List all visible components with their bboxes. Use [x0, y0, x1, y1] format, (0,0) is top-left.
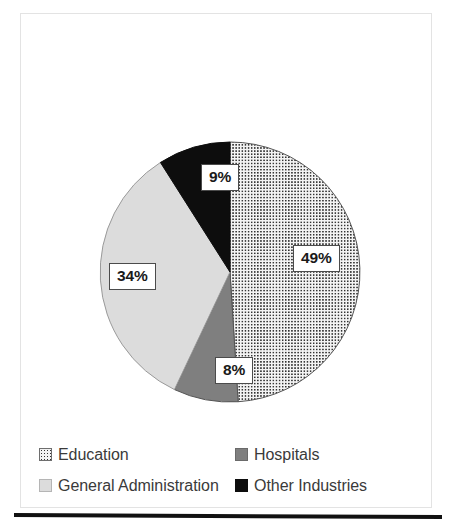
light-gray-square-swatch-icon [39, 479, 52, 492]
black-square-swatch-icon [235, 479, 248, 492]
legend-item-education[interactable]: Education [39, 439, 235, 470]
legend-label-other-industries: Other Industries [254, 478, 367, 494]
legend-item-other-industries[interactable]: Other Industries [235, 470, 415, 501]
data-label-hospitals: 8% [215, 357, 253, 384]
legend-label-hospitals: Hospitals [254, 447, 319, 463]
legend-item-general-administration[interactable]: General Administration [39, 470, 235, 501]
chart-frame: 49% 8% 34% 9% Education Hospitals Genera… [20, 13, 432, 508]
legend-row-1: Education Hospitals [39, 439, 415, 470]
gray-square-swatch-icon [235, 448, 248, 461]
data-label-other-industries: 9% [201, 164, 239, 191]
legend-item-hospitals[interactable]: Hospitals [235, 439, 415, 470]
bottom-divider-rule [14, 513, 442, 519]
data-label-education: 49% [293, 245, 340, 272]
legend-label-education: Education [58, 447, 129, 463]
legend-row-2: General Administration Other Industries [39, 470, 415, 501]
legend-label-general-administration: General Administration [58, 478, 219, 494]
plot-area: 49% 8% 34% 9% [21, 14, 433, 434]
chart-legend: Education Hospitals General Administrati… [39, 439, 415, 501]
data-label-general-administration: 34% [109, 263, 156, 290]
dotted-square-swatch-icon [39, 448, 52, 461]
